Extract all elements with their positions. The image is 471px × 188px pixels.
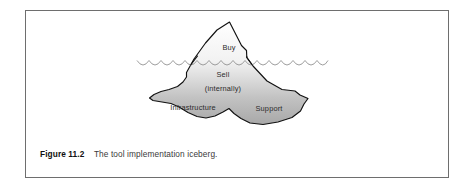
figure-caption-title: The tool implementation iceberg. [94, 149, 218, 159]
label-buy: Buy [222, 43, 235, 52]
figure-frame: Buy Sell (internally) Infrastructure Sup… [25, 10, 449, 178]
label-sell: Sell [217, 70, 230, 79]
label-infrastructure: Infrastructure [170, 103, 216, 112]
figure-caption: Figure 11.2 The tool implementation iceb… [40, 148, 440, 160]
iceberg-illustration: Buy Sell (internally) Infrastructure Sup… [26, 11, 450, 141]
iceberg-svg: Buy Sell (internally) Infrastructure Sup… [26, 11, 450, 141]
water-scallops-right [245, 61, 328, 66]
figure-root: Buy Sell (internally) Infrastructure Sup… [0, 0, 471, 188]
figure-caption-number: Figure 11.2 [40, 149, 84, 159]
label-internally: (internally) [205, 84, 241, 93]
label-support: Support [256, 104, 283, 113]
